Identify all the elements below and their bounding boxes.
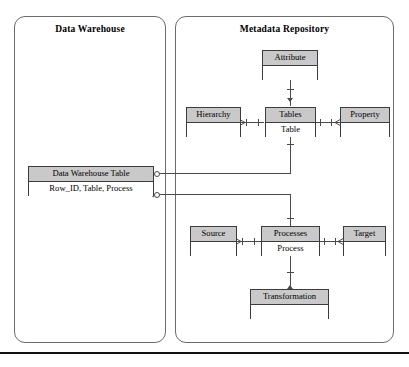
entity-transformation[interactable]: Transformation (250, 289, 329, 319)
entity-tables[interactable]: Tables Table (265, 107, 316, 137)
page-divider-rule (0, 352, 409, 354)
connector-dwtable-to-processes (157, 194, 291, 195)
arrowhead-attribute-tables (287, 98, 293, 102)
tick-processes-transformation (287, 272, 294, 273)
connector-attribute-tables (290, 80, 291, 106)
entity-header-attribute: Attribute (263, 51, 317, 66)
entity-body-property (341, 123, 389, 137)
entity-header-transformation: Transformation (251, 290, 328, 305)
entity-attribute[interactable]: Attribute (262, 50, 318, 80)
entity-header-tables: Tables (266, 108, 315, 123)
entity-data-warehouse-table[interactable]: Data Warehouse Table Row_ID, Table, Proc… (28, 166, 154, 196)
panel-title-metadata-repository: Metadata Repository (176, 24, 393, 34)
tick-target-near (324, 238, 325, 245)
entity-header-data-warehouse-table: Data Warehouse Table (29, 167, 153, 182)
tick-source-far (254, 238, 255, 245)
entity-header-hierarchy: Hierarchy (187, 108, 240, 123)
entity-header-source: Source (191, 227, 236, 242)
tick-target-far (335, 238, 336, 245)
diagram-canvas: Data Warehouse Metadata Repository (0, 0, 409, 367)
tick-processes-up (287, 218, 294, 219)
tick-property-far (331, 119, 332, 126)
tick-hierarchy-far (258, 119, 259, 126)
entity-body-target (344, 242, 385, 256)
connector-tables-down (290, 136, 291, 174)
entity-body-attribute (263, 66, 317, 80)
entity-hierarchy[interactable]: Hierarchy (186, 107, 241, 137)
entity-property[interactable]: Property (340, 107, 390, 137)
tick-hierarchy-near (246, 119, 247, 126)
entity-body-processes: Process (262, 242, 319, 256)
entity-body-tables: Table (266, 123, 315, 137)
entity-header-target: Target (344, 227, 385, 242)
entity-target[interactable]: Target (343, 226, 386, 256)
tick-property-near (320, 119, 321, 126)
entity-body-transformation (251, 305, 328, 319)
entity-body-source (191, 242, 236, 256)
entity-body-hierarchy (187, 123, 240, 137)
connector-processes-up (290, 194, 291, 226)
entity-body-data-warehouse-table: Row_ID, Table, Process (29, 182, 153, 196)
tick-attribute-tables (287, 89, 294, 90)
entity-source[interactable]: Source (190, 226, 237, 256)
panel-title-data-warehouse: Data Warehouse (15, 24, 165, 34)
entity-processes[interactable]: Processes Process (261, 226, 320, 256)
tick-source-near (242, 238, 243, 245)
entity-header-processes: Processes (262, 227, 319, 242)
entity-header-property: Property (341, 108, 389, 123)
connector-dwtable-to-tables (157, 173, 291, 174)
tick-tables-down (287, 144, 294, 145)
